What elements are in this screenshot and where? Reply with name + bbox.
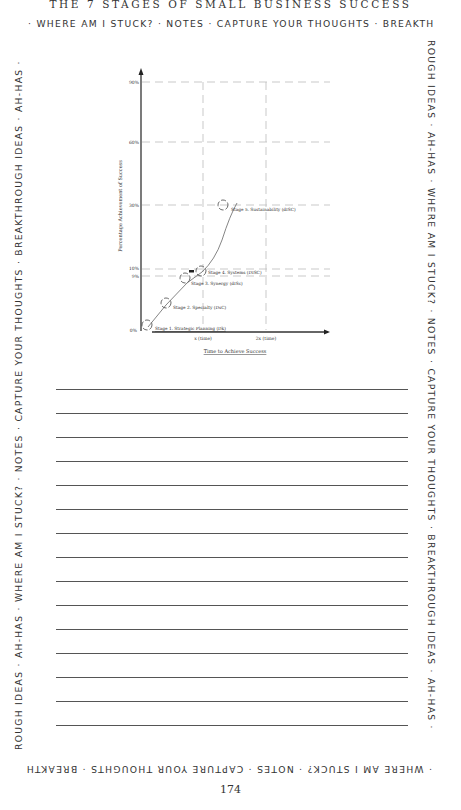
stage-markers bbox=[142, 200, 228, 330]
note-line bbox=[56, 413, 408, 414]
note-line bbox=[56, 557, 408, 558]
svg-text:Stage 4. Systems (DISC): Stage 4. Systems (DISC) bbox=[208, 270, 262, 275]
x-axis-label: Time to Achieve Success bbox=[204, 348, 267, 354]
note-line bbox=[56, 677, 408, 678]
svg-text:0%: 0% bbox=[130, 328, 138, 333]
note-line bbox=[56, 533, 408, 534]
note-line bbox=[56, 581, 408, 582]
border-text-bottom: · WHERE AM I STUCK? · NOTES · CAPTURE YO… bbox=[22, 764, 432, 775]
note-line bbox=[56, 653, 408, 654]
note-line bbox=[56, 629, 408, 630]
note-line bbox=[56, 509, 408, 510]
stages-chart: 90% 60% 30% 10% 9% 0% Percentage Achieve… bbox=[0, 0, 461, 380]
svg-text:90%: 90% bbox=[129, 80, 140, 85]
svg-text:x (time): x (time) bbox=[194, 336, 212, 341]
svg-text:Stage 5. Sustainability (dISC): Stage 5. Sustainability (dISC) bbox=[231, 207, 296, 212]
note-line bbox=[56, 605, 408, 606]
svg-text:Stage 2. Specialty (DsC): Stage 2. Specialty (DsC) bbox=[173, 305, 226, 310]
note-line bbox=[56, 461, 408, 462]
note-line bbox=[56, 389, 408, 390]
page-number: 174 bbox=[0, 783, 461, 796]
gridlines bbox=[142, 82, 330, 330]
y-tick-labels: 90% 60% 30% 10% 9% 0% bbox=[129, 80, 140, 333]
y-axis-arrow-icon bbox=[139, 68, 144, 75]
svg-text:60%: 60% bbox=[129, 140, 140, 145]
axes bbox=[141, 74, 328, 332]
svg-text:10%: 10% bbox=[129, 266, 140, 271]
svg-text:2x (time): 2x (time) bbox=[256, 336, 277, 341]
y-axis-label: Percentage Achievement of Success bbox=[117, 160, 124, 252]
svg-text:Stage 3. Synergy (dISc): Stage 3. Synergy (dISc) bbox=[191, 281, 243, 286]
note-line bbox=[56, 485, 408, 486]
svg-text:30%: 30% bbox=[129, 203, 140, 208]
svg-text:9%: 9% bbox=[132, 274, 140, 279]
x-tick-labels: x (time) 2x (time) bbox=[194, 336, 276, 341]
x-axis-arrow-icon bbox=[324, 330, 330, 335]
note-line bbox=[56, 701, 408, 702]
svg-text:Stage 1. Strategic Planning (D: Stage 1. Strategic Planning (Dk) bbox=[155, 326, 226, 331]
note-line bbox=[56, 437, 408, 438]
note-line bbox=[56, 725, 408, 726]
